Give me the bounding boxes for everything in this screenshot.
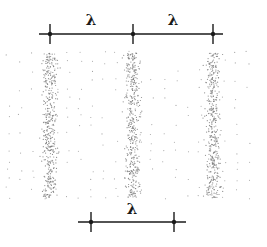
top-wavelength-scale: λ λ: [39, 11, 223, 44]
scale-tick-dot: [131, 32, 135, 36]
top-lambda-label-2: λ: [168, 11, 179, 29]
top-lambda-label-1: λ: [86, 11, 97, 29]
wavelength-diagram: λ λ λ: [0, 0, 267, 247]
scale-tick-dot: [211, 32, 215, 36]
scale-tick-dot: [89, 220, 93, 224]
bottom-wavelength-scale: λ: [78, 200, 186, 232]
density-band-dot-field: [6, 51, 251, 200]
scale-tick-dot: [48, 32, 52, 36]
bottom-lambda-label: λ: [127, 200, 138, 218]
scale-tick-dot: [172, 220, 176, 224]
